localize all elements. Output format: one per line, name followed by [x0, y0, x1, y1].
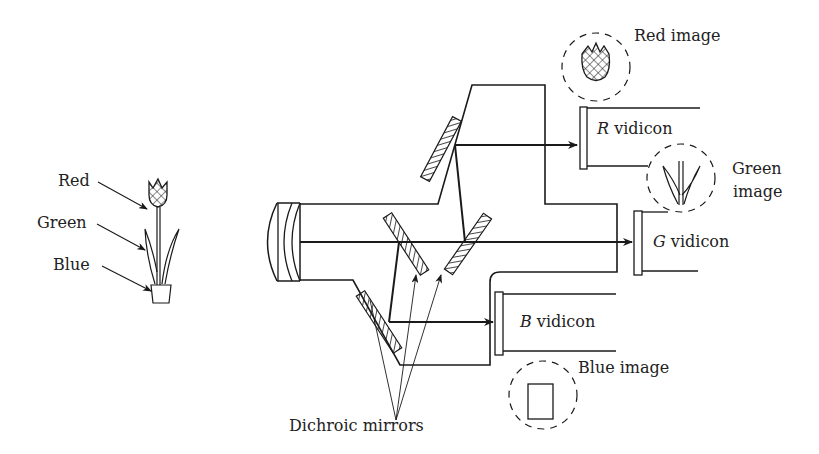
hatched-mirror-icon — [383, 213, 428, 275]
green-image-label-1: Green — [732, 159, 782, 178]
light-paths — [300, 145, 632, 322]
label-red: Red — [58, 171, 90, 190]
hatched-mirror-icon — [444, 213, 491, 274]
dichroic-mirrors-label: Dichroic mirrors — [289, 416, 424, 435]
green-image-label-2: image — [733, 182, 783, 201]
red-image-label: Red image — [634, 26, 720, 45]
r-vidicon: R vidicon — [580, 107, 700, 169]
b-vidicon: B vidicon — [495, 292, 616, 355]
label-blue: Blue — [53, 255, 90, 274]
b-vidicon-label: B vidicon — [519, 312, 595, 331]
blue-image-label: Blue image — [578, 358, 669, 377]
camera-diagram: Red Green Blue — [0, 0, 819, 454]
pot-icon — [528, 384, 553, 419]
tulip-head-icon — [582, 43, 610, 81]
lens-icon — [268, 203, 301, 281]
arrow-blue — [102, 266, 151, 291]
blue-image: Blue image — [509, 358, 669, 429]
tulip-icon — [145, 179, 179, 303]
leaves-icon — [663, 161, 700, 205]
label-green: Green — [37, 213, 87, 232]
red-image: Red image — [562, 26, 720, 101]
arrow-red — [98, 182, 147, 209]
dichroic-mirror-2 — [444, 213, 491, 274]
dichroic-mirror-1 — [383, 213, 428, 275]
g-vidicon-label: G vidicon — [653, 232, 729, 251]
g-vidicon: G vidicon — [634, 211, 729, 275]
tulip-object: Red Green Blue — [37, 171, 179, 303]
arrow-green — [97, 224, 145, 250]
green-image: Green image — [647, 144, 783, 212]
r-vidicon-label: R vidicon — [596, 119, 673, 138]
